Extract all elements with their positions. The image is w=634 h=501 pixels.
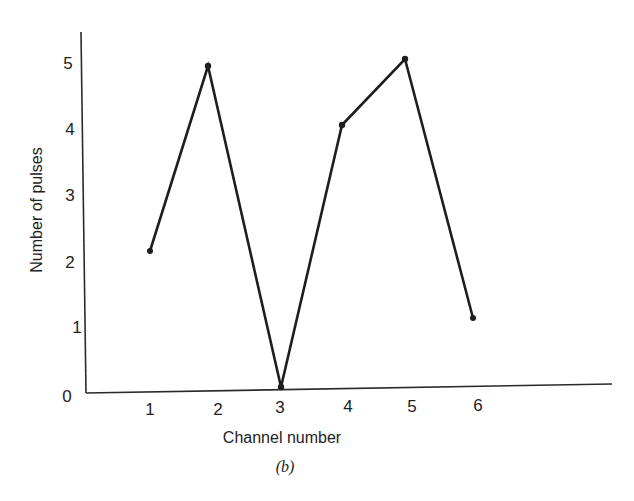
data-line [150,59,473,387]
y-tick-label: 0 [62,387,71,406]
x-tick-label: 4 [343,397,352,416]
data-point [339,122,345,128]
y-tick-label: 3 [65,186,74,205]
line-chart: 0 1 2 3 4 5 1 2 3 4 5 6 Number of pulses… [0,0,634,501]
data-point [402,56,408,62]
y-tick-label: 1 [72,318,81,337]
data-point [147,248,153,254]
data-point [278,384,284,390]
y-tick-labels: 0 1 2 3 4 5 [62,54,81,406]
data-point [205,63,211,69]
y-tick-label: 5 [63,54,72,73]
y-axis [81,32,86,393]
x-tick-labels: 1 2 3 4 5 6 [145,396,482,419]
y-axis-title: Number of pulses [28,147,45,272]
x-tick-label: 1 [145,400,154,419]
y-tick-label: 4 [65,120,74,139]
data-point [470,315,476,321]
y-tick-label: 2 [65,253,74,272]
x-tick-label: 6 [473,396,482,415]
x-tick-label: 3 [275,398,284,417]
x-tick-label: 5 [407,397,416,416]
x-tick-label: 2 [213,400,222,419]
x-axis [86,384,612,393]
x-axis-title: Channel number [223,429,342,446]
figure-caption: (b) [276,458,295,476]
